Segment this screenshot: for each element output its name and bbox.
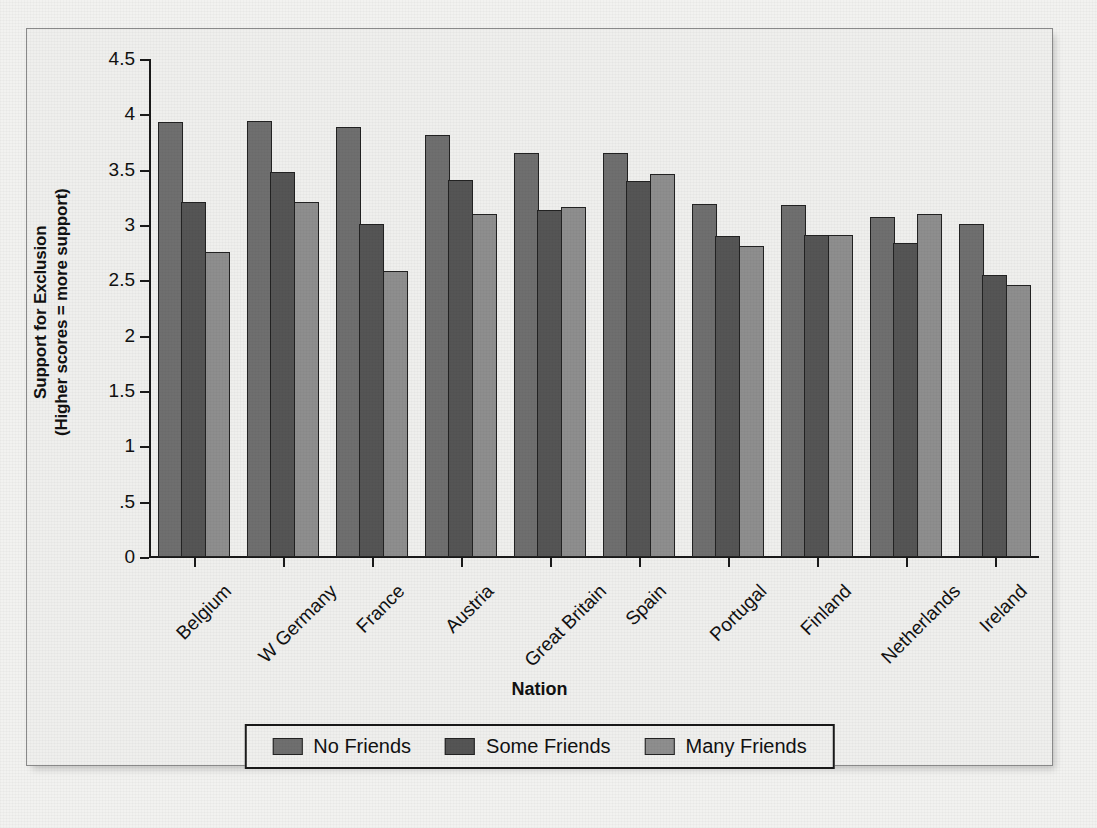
x-axis-tick-label: Belgium	[172, 580, 236, 644]
bar	[626, 181, 651, 557]
x-axis-tick-mark	[550, 557, 552, 567]
x-axis-tick-mark	[461, 557, 463, 567]
x-axis-tick-mark	[995, 557, 997, 567]
y-axis-title-line-2: (Higher scores = more support)	[51, 102, 72, 522]
bar	[893, 243, 918, 557]
x-axis-tick-labels: BelgiumW GermanyFranceAustriaGreat Brita…	[149, 569, 1039, 689]
bar	[359, 224, 384, 557]
bar	[205, 252, 230, 557]
y-axis-tick-mark	[140, 502, 149, 504]
y-axis-tick-label: 4	[124, 103, 135, 125]
x-axis-tick-label-cell: Ireland	[950, 569, 1039, 689]
y-axis-tick-mark	[140, 170, 149, 172]
legend-item: Many Friends	[645, 735, 807, 758]
bar	[692, 204, 717, 557]
bar	[804, 235, 829, 557]
bar-group	[683, 59, 772, 557]
y-axis-tick-mark	[140, 114, 149, 116]
y-axis-tick-label: 1.5	[109, 380, 135, 402]
bar	[181, 202, 206, 557]
bar	[472, 214, 497, 557]
x-axis-tick-label: Ireland	[975, 580, 1032, 637]
y-axis-tick-label: 3	[124, 214, 135, 236]
bar-group	[416, 59, 505, 557]
bar	[294, 202, 319, 557]
legend-item: Some Friends	[445, 735, 611, 758]
legend-item: No Friends	[272, 735, 411, 758]
x-axis-tick-label-cell: Great Britain	[505, 569, 594, 689]
y-axis-tick-mark	[140, 225, 149, 227]
x-axis-tick-label-cell: Portugal	[683, 569, 772, 689]
bar	[650, 174, 675, 557]
x-axis-tick-mark	[906, 557, 908, 567]
bar	[448, 180, 473, 557]
bar	[828, 235, 853, 557]
bar	[781, 205, 806, 557]
y-axis-tick-label: 4.5	[109, 48, 135, 70]
x-axis-tick-label: Austria	[440, 580, 497, 637]
y-axis-tick-mark	[140, 557, 149, 559]
plot-area: 0.511.522.533.544.5	[149, 59, 1039, 557]
bar-group	[861, 59, 950, 557]
x-axis-title: Nation	[27, 679, 1052, 700]
y-axis-tick-label: 2.5	[109, 269, 135, 291]
x-axis-tick-label-cell: Netherlands	[861, 569, 950, 689]
x-axis-tick-mark	[639, 557, 641, 567]
bar	[870, 217, 895, 557]
bar-groups	[149, 59, 1039, 557]
bar	[959, 224, 984, 557]
y-axis-tick-label: 3.5	[109, 159, 135, 181]
y-axis-title-line-1: Support for Exclusion	[30, 102, 51, 522]
legend-label: Many Friends	[686, 735, 807, 758]
bar-group	[950, 59, 1039, 557]
bar	[383, 271, 408, 557]
x-axis-tick-label-cell: France	[327, 569, 416, 689]
y-axis-tick-mark	[140, 280, 149, 282]
chart-legend: No FriendsSome FriendsMany Friends	[244, 724, 834, 769]
bar-group	[594, 59, 683, 557]
x-axis-tick-label-cell: W Germany	[238, 569, 327, 689]
bar	[537, 210, 562, 557]
x-axis-tick-label-cell: Spain	[594, 569, 683, 689]
chart-plot-wrapper: Support for Exclusion (Higher scores = m…	[27, 29, 1052, 765]
bar	[270, 172, 295, 557]
x-axis-tick-label: Portugal	[705, 580, 771, 646]
bar	[982, 275, 1007, 557]
bar-group	[772, 59, 861, 557]
bar	[158, 122, 183, 557]
y-axis-tick-label: 1	[124, 435, 135, 457]
bar-group	[327, 59, 416, 557]
x-axis-tick-mark	[194, 557, 196, 567]
x-axis-tick-label: Finland	[796, 580, 856, 640]
y-axis-title: Support for Exclusion (Higher scores = m…	[30, 102, 73, 522]
legend-swatch	[645, 738, 675, 755]
x-axis-tick-label-cell: Finland	[772, 569, 861, 689]
bar-group	[505, 59, 594, 557]
x-axis-tick-mark	[372, 557, 374, 567]
legend-swatch	[272, 738, 302, 755]
y-axis-tick-label: 0	[124, 546, 135, 568]
bar	[336, 127, 361, 557]
y-axis-tick-mark	[140, 59, 149, 61]
y-axis-tick-mark	[140, 446, 149, 448]
y-axis-tick-mark	[140, 391, 149, 393]
bar	[425, 135, 450, 557]
legend-swatch	[445, 738, 475, 755]
y-axis-tick-label: 2	[124, 325, 135, 347]
bar-group	[149, 59, 238, 557]
bar	[561, 207, 586, 557]
bar	[715, 236, 740, 557]
x-axis-tick-mark	[728, 557, 730, 567]
chart-figure-frame: Support for Exclusion (Higher scores = m…	[26, 28, 1053, 766]
y-axis-tick-label: .5	[119, 491, 135, 513]
x-axis-tick-label-cell: Belgium	[149, 569, 238, 689]
legend-label: No Friends	[313, 735, 411, 758]
x-axis-tick-mark	[283, 557, 285, 567]
bar	[739, 246, 764, 557]
bar	[1006, 285, 1031, 557]
bar	[603, 153, 628, 557]
legend-label: Some Friends	[486, 735, 611, 758]
bar	[514, 153, 539, 557]
x-axis-tick-label: France	[351, 580, 408, 637]
x-axis-tick-label-cell: Austria	[416, 569, 505, 689]
